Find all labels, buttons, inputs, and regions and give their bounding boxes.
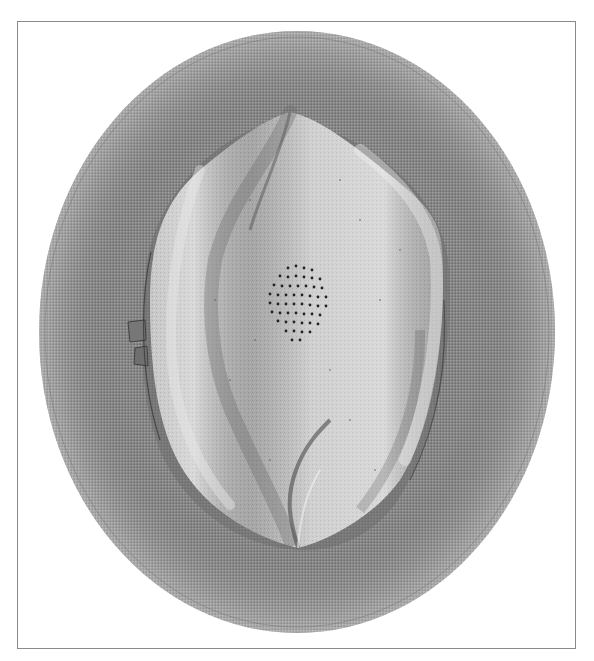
hat-illustration	[0, 0, 594, 661]
photo-stage: Hat viewed from above	[0, 0, 594, 661]
